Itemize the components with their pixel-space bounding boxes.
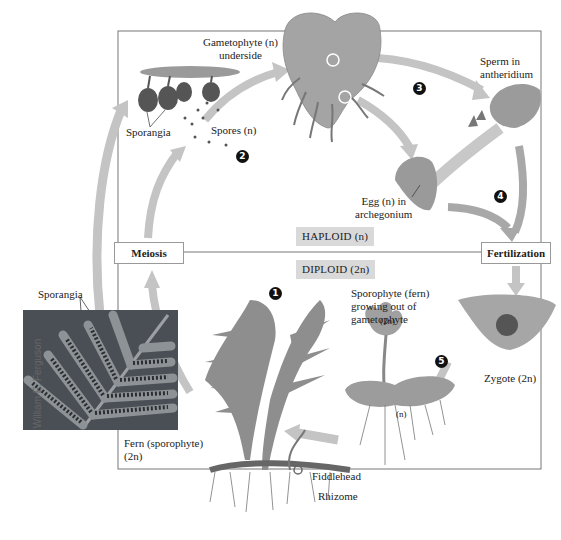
haploid-label: HAPLOID (n) bbox=[296, 227, 374, 246]
arrow-egg-to-fertilization bbox=[448, 207, 508, 228]
diagram-graphics bbox=[0, 0, 561, 540]
fertilization-box: Fertilization bbox=[481, 242, 551, 264]
arrow-young-to-fern bbox=[298, 433, 338, 440]
gametophyte-underside-label: Gametophyte (n) underside bbox=[203, 36, 278, 62]
step-2-marker: 2 bbox=[236, 150, 249, 163]
fern-sporophyte-illustration bbox=[205, 300, 350, 474]
gametophyte-illustration bbox=[282, 13, 384, 142]
diploid-label: DIPLOID (2n) bbox=[296, 260, 375, 279]
sporangia-photo-label: Sporangia bbox=[38, 288, 83, 301]
rhizome-label: Rhizome bbox=[318, 490, 358, 503]
sperm-label: Sperm in antheridium bbox=[480, 55, 533, 81]
arrow-gametophyte-to-egg bbox=[358, 100, 410, 148]
young-sporophyte-ploidy: (2n) bbox=[380, 315, 395, 328]
young-sporophyte-illustration bbox=[345, 302, 455, 465]
fern-sporophyte-label: Fern (sporophyte) (2n) bbox=[124, 437, 203, 463]
step-1-marker: 1 bbox=[269, 287, 282, 300]
fiddlehead-label: Fiddlehead bbox=[312, 470, 361, 483]
fern-leaflet-icon bbox=[23, 310, 178, 430]
arrow-meiosis-to-spores bbox=[148, 152, 178, 238]
gametophyte-ploidy: (n) bbox=[396, 408, 407, 421]
step-4-marker: 4 bbox=[494, 190, 507, 203]
fern-sporangia-photo bbox=[23, 310, 178, 430]
arrow-sperm-to-fertilization bbox=[515, 146, 523, 232]
step-3-marker: 3 bbox=[413, 82, 426, 95]
spores-label: Spores (n) bbox=[211, 124, 257, 137]
sporangia-top-label: Sporangia bbox=[126, 126, 171, 139]
egg-label: Egg (n) in archegonium bbox=[355, 195, 412, 221]
zygote-label: Zygote (2n) bbox=[484, 372, 536, 385]
meiosis-box: Meiosis bbox=[114, 242, 184, 264]
step-5-marker: 5 bbox=[435, 355, 448, 368]
photo-credit: William E. Ferguson bbox=[32, 339, 43, 429]
